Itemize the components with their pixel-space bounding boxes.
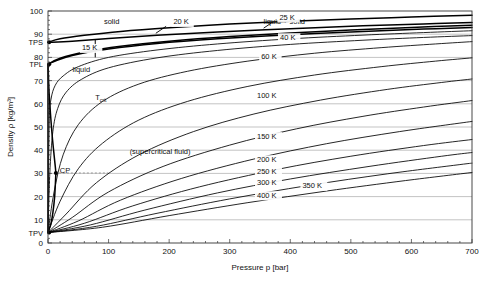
x-tick-label: 600 [405, 247, 419, 256]
isotherm-label: 40 K [280, 33, 295, 42]
y-axis-special-label: TPS [28, 38, 43, 47]
cp-marker [54, 171, 58, 175]
region-label: solid [104, 17, 119, 26]
chart-annotations: 0100200300400500600700010203040506070809… [28, 7, 479, 256]
y-axis-special-label: TPL [29, 60, 43, 69]
chart-svg: 0100200300400500600700010203040506070809… [0, 0, 489, 281]
isotherm-label: 20 K [173, 17, 188, 26]
y-tick-label: 50 [34, 123, 43, 132]
isotherm-label: 350 K [302, 181, 322, 190]
region-label: liquid [73, 65, 91, 74]
x-tick-label: 700 [465, 247, 479, 256]
x-tick-label: 400 [284, 247, 298, 256]
isotherm-label: 150 K [257, 132, 277, 141]
leader-line-20k [156, 26, 166, 33]
x-tick-label: 300 [223, 247, 237, 256]
t-crit-label: Tcrit [95, 93, 107, 103]
isotherm-label: 100 K [257, 91, 277, 100]
y-tick-label: 100 [30, 7, 44, 16]
y-tick-label: 30 [34, 169, 43, 178]
region-label: (supercritical fluid) [130, 147, 191, 156]
y-axis-special-label: TPV [28, 229, 43, 238]
y-tick-label: 40 [34, 146, 43, 155]
isotherm-label: 15 K [82, 43, 97, 52]
y-tick-label: 60 [34, 100, 43, 109]
isotherm-curve [48, 58, 472, 233]
isotherm-label: 25 K [279, 13, 294, 22]
x-tick-label: 500 [344, 247, 358, 256]
x-tick-label: 200 [162, 247, 176, 256]
y-tick-label: 0 [39, 239, 44, 248]
x-tick-label: 100 [102, 247, 116, 256]
isotherm-label: 60 K [261, 52, 276, 61]
region-label: CP [60, 166, 70, 175]
density-pressure-chart: 0100200300400500600700010203040506070809… [0, 0, 489, 281]
isotherm-label: 300 K [257, 178, 277, 187]
y-tick-label: 70 [34, 77, 43, 86]
y-axis-title: Density ρ [kg/m³] [6, 97, 15, 157]
isotherm-label: 200 K [257, 155, 277, 164]
isotherm-label: 250 K [257, 167, 277, 176]
y-tick-label: 10 [34, 216, 43, 225]
isotherm-label: 400 K [257, 191, 277, 200]
x-axis-title: Pressure p [bar] [232, 263, 289, 272]
x-tick-label: 0 [46, 247, 51, 256]
y-tick-label: 20 [34, 193, 43, 202]
